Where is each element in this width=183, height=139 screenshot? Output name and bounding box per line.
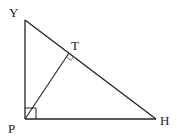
triangle-diagram: Y T P H [0, 0, 183, 139]
label-P: P [8, 121, 15, 136]
right-angle-mark-T [67, 57, 74, 61]
segment-YH [25, 20, 156, 119]
segment-PT [25, 53, 69, 119]
label-Y: Y [9, 5, 19, 20]
label-T: T [71, 38, 79, 53]
label-H: H [160, 113, 169, 128]
